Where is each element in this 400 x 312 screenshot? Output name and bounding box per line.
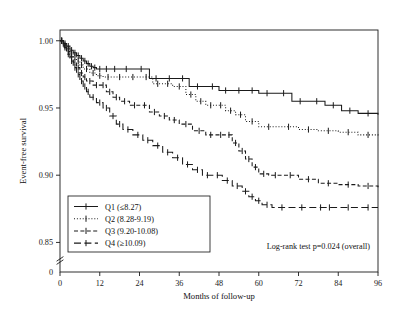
legend-label-3: Q3 (9.20-10.08) [105,227,158,236]
y-axis-title: Event-free survival [18,117,28,184]
series-line-3 [60,41,378,188]
logrank-annotation: Log-rank test p=0.024 (overall) [267,242,371,251]
x-tick-label: 60 [255,279,263,288]
x-axis-title: Months of follow-up [183,291,255,301]
y-tick-label: 0.95 [39,104,53,113]
x-tick-label: 96 [374,279,382,288]
x-tick-label: 84 [334,279,342,288]
x-tick-label: 48 [215,279,223,288]
x-tick-label: 0 [58,279,62,288]
legend-label-2: Q2 (8.28-9.19) [105,215,154,224]
x-tick-label: 24 [135,279,143,288]
series-line-4 [60,41,378,208]
y-origin-label: 0 [49,268,53,277]
x-tick-label: 72 [294,279,302,288]
chart-container: 1.000.950.900.85001224364860728496Months… [0,0,400,312]
legend-label-1: Q1 (≤8.27) [105,203,142,212]
kaplan-meier-chart: 1.000.950.900.85001224364860728496Months… [0,0,400,312]
legend-label-4: Q4 (≥10.09) [105,239,146,248]
y-tick-label: 1.00 [39,37,53,46]
y-tick-label: 0.90 [39,171,53,180]
x-tick-label: 12 [96,279,104,288]
y-tick-label: 0.85 [39,238,53,247]
x-tick-label: 36 [175,279,183,288]
